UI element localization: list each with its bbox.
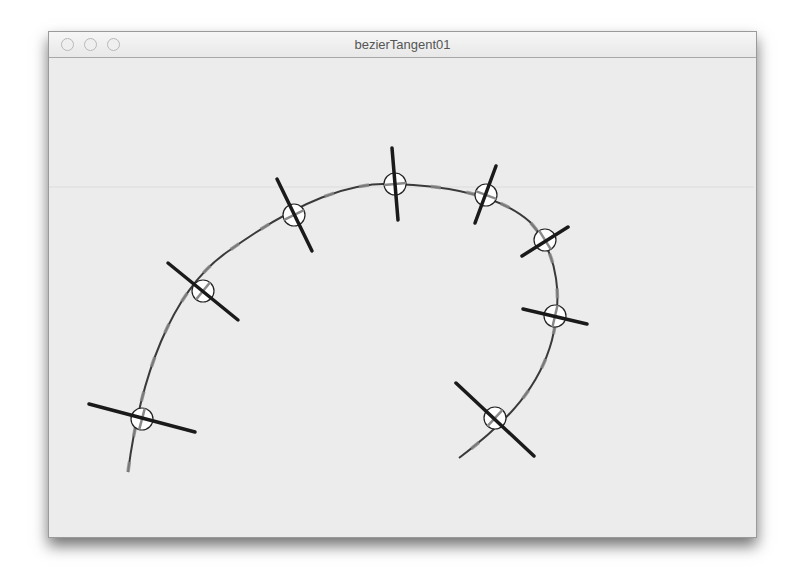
normal-line — [456, 383, 534, 456]
normal-line — [277, 179, 312, 251]
bezier-drawing — [0, 0, 799, 581]
